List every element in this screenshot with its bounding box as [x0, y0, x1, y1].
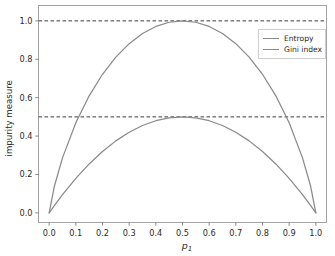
- y-tick-label: 1.0: [12, 17, 33, 25]
- legend-label-entropy: Entropy: [284, 35, 314, 43]
- legend-line-swatch-gini-index: [263, 49, 279, 50]
- x-tick-label: 1.0: [309, 229, 322, 237]
- chart-legend: Entropy Gini index: [258, 29, 326, 59]
- x-tick-label: 0.2: [96, 229, 109, 237]
- y-tick-label: 0.4: [12, 132, 33, 140]
- chart-figure: 0.00.10.20.30.40.50.60.70.80.91.0 0.00.2…: [0, 0, 335, 256]
- y-tick-label: 0.6: [12, 94, 33, 102]
- x-axis-label: p1: [182, 241, 193, 251]
- x-tick-label: 0.9: [283, 229, 296, 237]
- x-axis-label-subscript: 1: [188, 245, 192, 253]
- x-tick-label: 0.7: [229, 229, 242, 237]
- series-line-gini-index: [49, 117, 316, 213]
- legend-line-swatch-entropy: [263, 38, 279, 39]
- y-tick-label: 0.2: [12, 170, 33, 178]
- legend-label-gini-index: Gini index: [284, 46, 322, 54]
- x-tick-label: 0.4: [149, 229, 162, 237]
- legend-entry-entropy: Entropy: [263, 33, 321, 44]
- x-tick-label: 0.8: [256, 229, 269, 237]
- x-tick-label: 0.1: [69, 229, 82, 237]
- x-tick-label: 0.0: [43, 229, 56, 237]
- x-tick-label: 0.3: [123, 229, 136, 237]
- x-tick-label: 0.5: [176, 229, 189, 237]
- x-tick-label: 0.6: [203, 229, 216, 237]
- y-axis-label: impurity measure: [5, 73, 14, 163]
- y-tick-label: 0.8: [12, 55, 33, 63]
- y-tick-label: 0.0: [12, 209, 33, 217]
- legend-entry-gini-index: Gini index: [263, 44, 321, 55]
